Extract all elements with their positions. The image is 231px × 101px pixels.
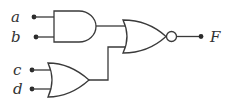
nor-gate-icon — [123, 20, 166, 53]
input-label-c: c — [13, 61, 22, 79]
input-c-terminal — [30, 68, 51, 73]
input-label-a: a — [11, 8, 20, 26]
input-d-terminal — [30, 87, 51, 92]
input-a-terminal — [32, 15, 54, 20]
input-label-d: d — [13, 80, 23, 98]
wire-or-to-nor — [89, 47, 127, 80]
output-terminal-dot-icon — [199, 34, 204, 39]
and-gate-icon — [54, 11, 96, 42]
output-label-f: F — [209, 28, 221, 46]
logic-circuit-diagram: a b c d F — [0, 0, 231, 101]
inversion-bubble-icon — [167, 32, 177, 42]
or-gate-icon — [48, 63, 89, 97]
input-b-terminal — [34, 35, 54, 40]
input-label-b: b — [11, 28, 21, 46]
